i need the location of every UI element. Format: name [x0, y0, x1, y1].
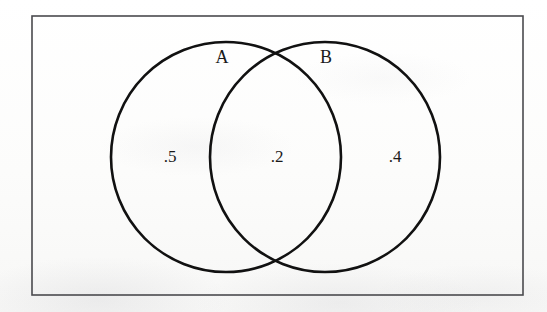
region-value-a-only: .5	[164, 147, 177, 166]
venn-diagram-figure: A B .5 .2 .4	[0, 0, 547, 312]
set-label-b: B	[320, 47, 332, 67]
set-label-a: A	[216, 47, 229, 67]
region-value-a-and-b: .2	[271, 147, 284, 166]
region-value-b-only: .4	[389, 147, 402, 166]
set-circle-b	[210, 42, 440, 272]
venn-diagram-canvas: A B .5 .2 .4	[0, 0, 547, 312]
set-circle-a	[111, 42, 341, 272]
